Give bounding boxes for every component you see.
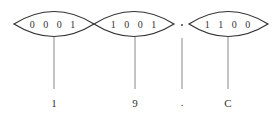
hex-digit-3: C — [224, 97, 231, 109]
hex-point: . — [181, 96, 184, 108]
binary-hex-diagram: 0 0 0 1 1 0 0 1 1 1 0 0 1 9 . C — [0, 0, 277, 116]
hex-digit-2: 9 — [132, 97, 138, 109]
bit-group-3-text: 1 1 0 0 — [205, 19, 254, 30]
bit-group-1-text: 0 0 0 1 — [30, 19, 79, 30]
hex-digit-1: 1 — [51, 97, 57, 109]
bit-group-2-text: 1 0 0 1 — [111, 19, 160, 30]
bit-group-2: 1 0 0 1 — [94, 12, 174, 37]
binary-point — [181, 24, 183, 26]
bit-group-3: 1 1 0 0 — [189, 12, 268, 37]
bit-group-1: 0 0 0 1 — [14, 12, 94, 37]
